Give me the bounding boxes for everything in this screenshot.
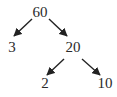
edge-60-to-3 <box>14 19 32 36</box>
node-10: 10 <box>98 75 113 91</box>
node-20: 20 <box>66 39 81 55</box>
edge-60-to-20 <box>49 19 67 36</box>
node-3: 3 <box>8 39 16 55</box>
factor-tree-canvas: 60 3 20 2 10 <box>0 0 117 97</box>
factor-tree-diagram: 60 3 20 2 10 <box>0 0 117 97</box>
node-2: 2 <box>41 75 49 91</box>
node-60: 60 <box>33 4 48 20</box>
edge-20-to-2 <box>47 59 64 75</box>
edge-20-to-10 <box>82 59 100 75</box>
